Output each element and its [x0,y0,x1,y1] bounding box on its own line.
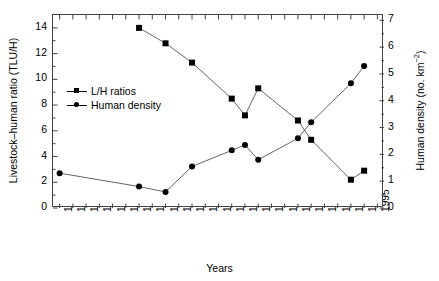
data-point-marker [308,137,314,143]
data-point-marker [308,119,314,125]
y-axis-left-tick-label: 0 [25,200,47,212]
y-axis-left-tick-label: 8 [25,97,47,109]
data-point-marker [295,118,301,124]
y-axis-right-tick-label: 5 [388,66,410,78]
y-axis-right-title-superscript: −2 [412,54,421,63]
legend: L/H ratios Human density [67,84,161,112]
legend-label-lh-ratios: L/H ratios [91,84,136,98]
data-point-marker [348,177,354,183]
data-point-marker [229,147,235,153]
y-axis-left-title: Livestock–human ratio (TLU/H) [7,14,21,207]
circle-marker-icon [74,102,79,107]
legend-item-human-density: Human density [67,98,161,112]
square-marker-icon [74,88,79,93]
data-point-marker [229,96,235,102]
y-axis-right-title-main: Human density (no. km [414,63,426,171]
y-axis-right-title-end: ) [414,50,426,54]
data-point-marker [255,85,261,91]
y-axis-right-tick-label: 0 [388,200,410,212]
y-axis-left-tick-label: 4 [25,149,47,161]
y-axis-right-title: Human density (no. km−2) [412,14,426,207]
data-point-marker [255,157,261,163]
y-axis-right-tick-label: 7 [388,12,410,24]
y-axis-right-tick-label: 3 [388,120,410,132]
data-point-marker [361,63,367,69]
data-point-marker [242,112,248,118]
data-point-marker [57,170,63,176]
data-point-marker [242,142,248,148]
y-axis-left-tick-label: 12 [25,46,47,58]
y-axis-right-tick-label: 2 [388,146,410,158]
figure: Livestock–human ratio (TLU/H) Human dens… [0,0,439,281]
y-axis-right-tick-label: 1 [388,173,410,185]
y-axis-left-tick-label: 6 [25,123,47,135]
data-point-marker [361,168,367,174]
data-point-marker [163,189,169,195]
data-point-marker [163,40,169,46]
data-point-marker [136,25,142,31]
data-point-marker [189,163,195,169]
data-point-marker [136,184,142,190]
data-point-marker [189,60,195,66]
legend-item-lh-ratios: L/H ratios [67,84,161,98]
legend-label-human-density: Human density [91,98,161,112]
y-axis-right-tick-label: 6 [388,39,410,51]
data-point-marker [348,80,354,86]
data-point-marker [295,135,301,141]
y-axis-left-tick-label: 10 [25,71,47,83]
y-axis-right-tick-label: 4 [388,93,410,105]
legend-line-lh-ratios [67,91,87,92]
x-axis-title: Years [0,262,439,274]
legend-line-human-density [67,105,87,106]
y-axis-left-tick-label: 2 [25,174,47,186]
y-axis-left-tick-label: 14 [25,20,47,32]
